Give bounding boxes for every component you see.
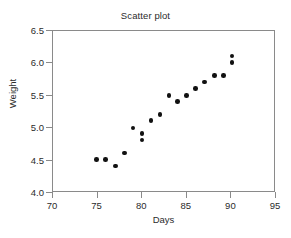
data-point <box>140 138 145 143</box>
x-axis-tick-label: 95 <box>258 200 291 211</box>
y-axis-tick-label: 4.0 <box>14 187 44 198</box>
y-axis-tick-label: 5.0 <box>14 122 44 133</box>
x-axis-tick <box>52 192 53 198</box>
x-axis-label: Days <box>52 214 275 225</box>
data-point <box>122 151 127 156</box>
data-point <box>113 164 118 169</box>
data-point <box>184 93 189 98</box>
y-axis-tick <box>46 127 52 128</box>
y-axis-tick-label: 5.5 <box>14 89 44 100</box>
data-point <box>94 157 99 162</box>
x-axis-tick-label: 75 <box>80 200 114 211</box>
y-axis-tick <box>46 95 52 96</box>
y-axis-tick-label: 4.5 <box>14 154 44 165</box>
x-axis-tick <box>141 192 142 198</box>
data-point <box>212 73 217 78</box>
y-axis-tick <box>46 160 52 161</box>
x-axis-tick <box>275 192 276 198</box>
data-point <box>230 54 235 59</box>
y-axis-tick-label: 6.5 <box>14 25 44 36</box>
data-point <box>167 93 172 98</box>
y-axis-tick <box>46 30 52 31</box>
x-axis-tick-label: 80 <box>124 200 158 211</box>
data-point <box>131 126 136 131</box>
plot-data-layer <box>52 30 275 192</box>
data-point <box>158 112 163 117</box>
data-point <box>149 118 154 123</box>
data-point <box>221 73 226 78</box>
x-axis-tick <box>97 192 98 198</box>
data-point <box>230 60 235 65</box>
scatter-plot-figure: Scatter plot Days Weight 4.04.55.05.56.0… <box>0 0 291 238</box>
x-axis-tick-label: 90 <box>213 200 247 211</box>
y-axis-tick-label: 6.0 <box>14 57 44 68</box>
x-axis-tick <box>230 192 231 198</box>
data-point <box>193 86 198 91</box>
x-axis-tick-label: 70 <box>35 200 69 211</box>
x-axis-tick-label: 85 <box>169 200 203 211</box>
data-point <box>140 131 145 136</box>
y-axis-tick <box>46 62 52 63</box>
data-point <box>175 99 180 104</box>
data-point <box>103 157 108 162</box>
data-point <box>202 80 207 85</box>
chart-title: Scatter plot <box>0 10 291 21</box>
x-axis-tick <box>186 192 187 198</box>
